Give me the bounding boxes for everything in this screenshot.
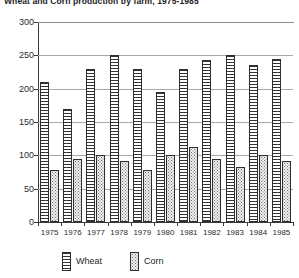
x-tick-mark-9 <box>247 222 248 226</box>
x-tick-mark-0 <box>38 222 39 226</box>
x-tick-mark-4 <box>131 222 132 226</box>
legend-swatch-corn <box>130 252 139 271</box>
plot-area <box>38 22 293 222</box>
x-tick-label-1980: 1980 <box>153 228 179 238</box>
x-tick-mark-3 <box>108 222 109 226</box>
y-tick-mark-300 <box>34 22 38 23</box>
y-tick-label-200: 200 <box>4 84 34 93</box>
bar-wheat-1985[interactable] <box>272 59 281 222</box>
x-tick-mark-2 <box>84 222 85 226</box>
bar-group-1981 <box>179 22 198 222</box>
y-tick-label-0: 0 <box>4 218 34 227</box>
x-axis-line <box>38 222 294 223</box>
y-tick-label-50: 50 <box>4 184 34 193</box>
bar-group-1984 <box>249 22 268 222</box>
x-tick-label-1985: 1985 <box>268 228 294 238</box>
legend-swatch-wheat <box>62 252 71 271</box>
y-axis-labels: 050100150200250300 <box>0 22 34 223</box>
bar-wheat-1984[interactable] <box>249 65 258 222</box>
bar-corn-1977[interactable] <box>96 155 105 222</box>
x-tick-mark-7 <box>200 222 201 226</box>
bar-corn-1980[interactable] <box>166 155 175 222</box>
y-tick-mark-200 <box>34 89 38 90</box>
bar-corn-1981[interactable] <box>189 147 198 222</box>
x-tick-label-1976: 1976 <box>60 228 86 238</box>
bar-group-1983 <box>226 22 245 222</box>
y-tick-label-250: 250 <box>4 51 34 60</box>
bar-wheat-1977[interactable] <box>86 69 95 222</box>
bar-corn-1978[interactable] <box>120 161 129 222</box>
y-tick-mark-150 <box>34 122 38 123</box>
bar-group-1980 <box>156 22 175 222</box>
bar-group-1979 <box>133 22 152 222</box>
x-tick-label-1979: 1979 <box>129 228 155 238</box>
y-tick-label-300: 300 <box>4 18 34 27</box>
legend-label-wheat: Wheat <box>76 256 102 266</box>
x-tick-mark-1 <box>61 222 62 226</box>
x-tick-mark-6 <box>177 222 178 226</box>
bar-group-1977 <box>86 22 105 222</box>
x-tick-label-1975: 1975 <box>37 228 63 238</box>
legend-label-corn: Corn <box>144 256 164 266</box>
legend-entry-wheat[interactable]: Wheat <box>62 252 102 271</box>
bar-group-1982 <box>202 22 221 222</box>
bar-corn-1976[interactable] <box>73 159 82 222</box>
bar-group-1975 <box>40 22 59 222</box>
bar-wheat-1976[interactable] <box>63 109 72 222</box>
x-tick-label-1984: 1984 <box>245 228 271 238</box>
bar-wheat-1978[interactable] <box>110 55 119 222</box>
chart-title: Wheat and Corn production by farm, 1975-… <box>4 0 199 6</box>
x-tick-label-1981: 1981 <box>176 228 202 238</box>
x-tick-label-1983: 1983 <box>222 228 248 238</box>
x-tick-label-1982: 1982 <box>199 228 225 238</box>
x-tick-label-1977: 1977 <box>83 228 109 238</box>
bar-corn-1979[interactable] <box>143 170 152 222</box>
y-tick-mark-250 <box>34 55 38 56</box>
bar-group-1976 <box>63 22 82 222</box>
bar-wheat-1975[interactable] <box>40 82 49 222</box>
y-tick-mark-100 <box>34 155 38 156</box>
x-tick-mark-10 <box>270 222 271 226</box>
bar-corn-1975[interactable] <box>50 170 59 222</box>
bar-group-1978 <box>110 22 129 222</box>
legend-entry-corn[interactable]: Corn <box>130 252 164 271</box>
bar-corn-1983[interactable] <box>236 167 245 222</box>
bar-wheat-1983[interactable] <box>226 55 235 222</box>
chart-legend: WheatCorn <box>62 250 186 272</box>
x-tick-mark-8 <box>223 222 224 226</box>
bar-wheat-1981[interactable] <box>179 69 188 222</box>
bar-corn-1985[interactable] <box>282 161 291 222</box>
bar-wheat-1979[interactable] <box>133 69 142 222</box>
bar-wheat-1982[interactable] <box>202 60 211 222</box>
x-tick-mark-11 <box>293 222 294 226</box>
bar-group-1985 <box>272 22 291 222</box>
y-tick-label-150: 150 <box>4 118 34 127</box>
bar-corn-1984[interactable] <box>259 155 268 222</box>
y-tick-mark-50 <box>34 189 38 190</box>
bar-wheat-1980[interactable] <box>156 92 165 222</box>
x-axis-labels: 1975197619771978197919801981198219831984… <box>38 228 294 240</box>
x-tick-mark-5 <box>154 222 155 226</box>
x-tick-label-1978: 1978 <box>106 228 132 238</box>
y-tick-label-100: 100 <box>4 151 34 160</box>
bar-corn-1982[interactable] <box>212 159 221 222</box>
